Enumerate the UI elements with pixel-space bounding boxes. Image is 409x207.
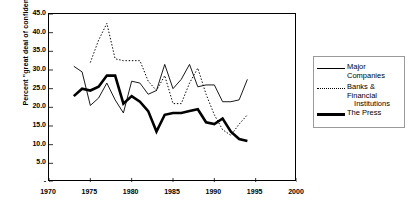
legend-item-major-companies: Major Companies	[317, 63, 403, 80]
series-line	[74, 64, 248, 113]
x-axis-tick-label: 1980	[111, 188, 151, 195]
y-axis-tick-label: 5.0	[12, 158, 46, 165]
x-axis-tick-label: 1970	[28, 188, 68, 195]
legend-swatch-solid-thin-icon	[317, 64, 347, 74]
plot-area	[48, 13, 296, 181]
x-axis-tick-label: 1995	[235, 188, 275, 195]
x-axis-tick-label: 2000	[276, 188, 316, 195]
legend-label: Major Companies	[347, 63, 403, 80]
x-axis-tick-label: 1975	[69, 188, 109, 195]
y-axis-tick-label: 25.0	[12, 84, 46, 91]
y-axis-tick-label: 15.0	[12, 121, 46, 128]
legend-item-banks-financial-institutions: Banks & FinancialInstitutions	[317, 83, 403, 109]
y-axis-tick-label: 35.0	[12, 46, 46, 53]
y-axis-tick-label: 30.0	[12, 65, 46, 72]
legend: Major Companies Banks & FinancialInstitu…	[313, 56, 405, 128]
x-axis-tick-label: 1985	[152, 188, 192, 195]
x-axis-tick-label: 1990	[193, 188, 233, 195]
legend-swatch-dotted-icon	[317, 84, 347, 94]
series-canvas	[49, 14, 297, 182]
y-axis-tick-label: -	[12, 177, 46, 184]
y-axis-tick-labels: 45.040.035.030.025.020.015.010.05.0-	[12, 0, 46, 207]
legend-item-the-press: The Press	[317, 109, 403, 120]
legend-label: Banks & FinancialInstitutions	[347, 83, 403, 109]
series-line	[74, 76, 248, 141]
y-axis-tick-label: 45.0	[12, 9, 46, 16]
y-axis-tick-label: 40.0	[12, 28, 46, 35]
y-axis-tick-label: 10.0	[12, 140, 46, 147]
legend-swatch-solid-thick-icon	[317, 110, 347, 120]
x-axis-tick-labels: 1970197519801985199019952000	[0, 188, 409, 200]
legend-label: The Press	[347, 109, 381, 118]
chart-figure: Percent "great deal of confidence" 45.04…	[0, 0, 409, 207]
y-axis-tick-label: 20.0	[12, 102, 46, 109]
